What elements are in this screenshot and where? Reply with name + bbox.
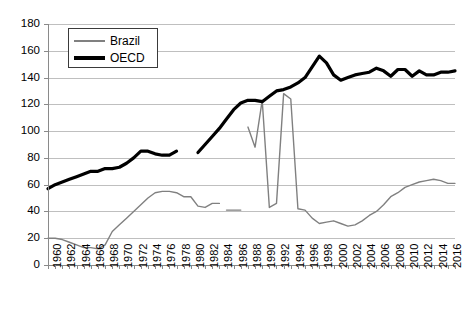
line-chart: 020406080100120140160180 196019621964196… [0, 0, 469, 314]
x-tick-mark-1989 [255, 265, 256, 269]
x-tick-mark-1965 [84, 265, 85, 269]
x-tick-mark-1974 [148, 265, 149, 269]
x-tick-mark-1993 [284, 265, 285, 269]
x-tick-mark-2001 [341, 265, 342, 269]
y-tick-label-40: 40 [0, 205, 40, 216]
x-tick-mark-1988 [248, 265, 249, 269]
y-tick-label-180: 180 [0, 18, 40, 29]
x-tick-mark-1973 [141, 265, 142, 269]
x-axis-labels: 1960196219641966196819701972197419761978… [0, 265, 469, 314]
x-tick-mark-1996 [305, 265, 306, 269]
x-tick-mark-1990 [262, 265, 263, 269]
x-tick-mark-2008 [391, 265, 392, 269]
y-tick-mark-160 [44, 51, 48, 52]
legend-swatch-brazil [74, 40, 105, 42]
x-tick-mark-1987 [241, 265, 242, 269]
x-tick-mark-1967 [98, 265, 99, 269]
x-tick-mark-1961 [55, 265, 56, 269]
legend-label-oecd: OECD [110, 52, 145, 64]
series-line-brazil-2 [248, 94, 455, 227]
x-tick-mark-1984 [219, 265, 220, 269]
x-tick-mark-1971 [127, 265, 128, 269]
x-tick-mark-1960 [48, 265, 49, 269]
legend-item-brazil: Brazil [74, 32, 152, 49]
x-tick-mark-1992 [276, 265, 277, 269]
x-tick-mark-1999 [326, 265, 327, 269]
x-tick-mark-2007 [384, 265, 385, 269]
series-line-oecd-1 [198, 56, 455, 152]
x-tick-mark-1964 [77, 265, 78, 269]
x-tick-mark-1968 [105, 265, 106, 269]
y-tick-label-100: 100 [0, 125, 40, 136]
x-tick-mark-1976 [162, 265, 163, 269]
x-tick-mark-1997 [312, 265, 313, 269]
x-tick-mark-1980 [191, 265, 192, 269]
x-tick-mark-1991 [269, 265, 270, 269]
x-tick-mark-1983 [212, 265, 213, 269]
y-tick-mark-140 [44, 78, 48, 79]
y-axis-line [48, 24, 49, 266]
series-line-brazil-0 [48, 191, 219, 249]
y-tick-label-80: 80 [0, 152, 40, 163]
y-tick-mark-80 [44, 158, 48, 159]
x-tick-mark-1962 [62, 265, 63, 269]
x-tick-mark-1978 [177, 265, 178, 269]
x-tick-mark-1979 [184, 265, 185, 269]
x-tick-mark-2016 [448, 265, 449, 269]
y-tick-mark-100 [44, 131, 48, 132]
x-tick-mark-2012 [419, 265, 420, 269]
x-tick-mark-2017 [455, 265, 456, 269]
y-tick-label-140: 140 [0, 72, 40, 83]
x-tick-mark-2011 [412, 265, 413, 269]
y-tick-mark-120 [44, 104, 48, 105]
x-tick-mark-2013 [426, 265, 427, 269]
x-tick-mark-1969 [112, 265, 113, 269]
x-tick-mark-1975 [155, 265, 156, 269]
x-tick-mark-1982 [205, 265, 206, 269]
x-tick-mark-2005 [369, 265, 370, 269]
x-tick-mark-2015 [441, 265, 442, 269]
x-tick-mark-1994 [291, 265, 292, 269]
series-line-oecd-0 [48, 151, 177, 188]
x-tick-mark-1995 [298, 265, 299, 269]
x-tick-mark-2010 [405, 265, 406, 269]
x-tick-mark-1986 [234, 265, 235, 269]
x-tick-mark-1972 [134, 265, 135, 269]
x-tick-mark-2006 [376, 265, 377, 269]
chart-legend: Brazil OECD [68, 28, 158, 68]
y-tick-mark-20 [44, 238, 48, 239]
x-tick-label-2016: 2016 [452, 244, 463, 268]
x-tick-mark-2000 [334, 265, 335, 269]
y-tick-mark-180 [44, 24, 48, 25]
y-tick-label-20: 20 [0, 232, 40, 243]
y-tick-label-160: 160 [0, 45, 40, 56]
x-tick-mark-2002 [348, 265, 349, 269]
x-tick-mark-2014 [434, 265, 435, 269]
legend-label-brazil: Brazil [110, 35, 140, 47]
y-tick-mark-40 [44, 211, 48, 212]
x-tick-mark-1970 [119, 265, 120, 269]
y-tick-label-60: 60 [0, 179, 40, 190]
legend-item-oecd: OECD [74, 49, 152, 66]
y-tick-label-120: 120 [0, 98, 40, 109]
x-tick-mark-2003 [355, 265, 356, 269]
x-tick-mark-1981 [198, 265, 199, 269]
x-tick-mark-1963 [69, 265, 70, 269]
x-tick-mark-2009 [398, 265, 399, 269]
legend-swatch-oecd [74, 56, 105, 60]
x-tick-mark-1998 [319, 265, 320, 269]
y-tick-mark-60 [44, 185, 48, 186]
x-tick-mark-2004 [362, 265, 363, 269]
x-tick-mark-1985 [227, 265, 228, 269]
x-tick-mark-1966 [91, 265, 92, 269]
x-tick-mark-1977 [169, 265, 170, 269]
